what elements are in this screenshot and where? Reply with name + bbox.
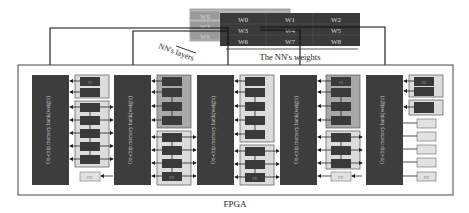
weight-cell: W1 [285,16,296,24]
memory-bank-3: On-chip memory bank(weight) [197,75,234,185]
weight-cell: W8 [331,38,342,46]
weight-cell: W7 [285,38,296,46]
pe-label: PE [424,175,430,180]
memory-bank-5: On-chip memory bank(weight) [366,75,403,185]
weight-cell: W6 [238,38,249,46]
fpga-diagram: W'0 W'3 W'6 W0 W1 W2 W3 W4 W5 W6 W7 W8 N… [0,0,469,213]
pe-label: PE [338,175,344,180]
weight-cell: W5 [331,27,342,35]
pe-label: PE [169,175,175,180]
pe-column-3: PE [235,75,279,185]
bank-label: On-chip memory bank(weight) [45,96,52,165]
bank-label: On-chip memory bank(weight) [210,96,217,165]
layers-label: NN's layers [157,41,195,62]
back-weight-label: W'3 [200,24,210,30]
back-weight-label: W'0 [200,14,210,20]
svg-text:PE: PE [422,80,427,85]
bank-label: On-chip memory bank(weight) [127,96,134,165]
memory-bank-2: On-chip memory bank(weight) [114,75,151,185]
pe-column-1: PE PE [70,75,113,181]
weights-title: The NN's weights [259,52,320,62]
bank-label: On-chip memory bank(weight) [293,96,300,165]
memory-bank-4: On-chip memory bank(weight) [280,75,317,185]
svg-text:PE: PE [339,80,344,85]
pe-label: PE [87,175,93,180]
memory-bank-1: On-chip memory bank(weight) [32,75,69,185]
fpga-label: FPGA [223,199,247,209]
weight-cell: W2 [331,16,342,24]
weight-cell: W3 [238,27,249,35]
bank-label: On-chip memory bank(weight) [379,96,386,165]
pe-label: PE [252,176,258,181]
weight-cell: W0 [238,16,249,24]
back-weight-label: W'6 [200,34,210,40]
svg-text:PE: PE [88,80,93,85]
